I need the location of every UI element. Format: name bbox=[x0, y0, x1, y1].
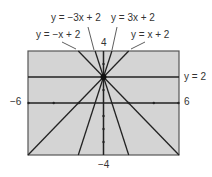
label-eq-neg3: y = −3x + 2 bbox=[51, 13, 101, 23]
leader-pos3 bbox=[112, 27, 117, 50]
leader-pos1 bbox=[131, 42, 145, 49]
label-ymax: 4 bbox=[101, 38, 107, 48]
intersection-point bbox=[101, 74, 107, 80]
graph-diagram bbox=[0, 0, 212, 177]
label-eq-neg1: y = −x + 2 bbox=[36, 30, 80, 40]
label-eq-pos1: y = x + 2 bbox=[131, 30, 169, 40]
label-eq-pos3: y = 3x + 2 bbox=[111, 13, 155, 23]
label-xmin: −6 bbox=[10, 97, 21, 107]
label-eq-horiz: y = 2 bbox=[184, 72, 206, 82]
label-ymin: −4 bbox=[98, 160, 109, 170]
label-xmax: 6 bbox=[184, 97, 190, 107]
leader-neg3 bbox=[88, 27, 94, 50]
leader-neg1 bbox=[62, 42, 76, 49]
